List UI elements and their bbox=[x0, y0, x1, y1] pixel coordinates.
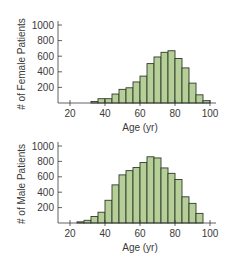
y-tick-label: 600 bbox=[37, 51, 54, 62]
histogram-bar bbox=[105, 200, 112, 223]
x-tick-label: 80 bbox=[169, 228, 181, 239]
histogram-bar bbox=[126, 171, 133, 223]
x-tick-label: 60 bbox=[134, 108, 146, 119]
histogram-bar bbox=[147, 157, 154, 223]
histogram-bar bbox=[196, 95, 203, 103]
x-tick-label: 20 bbox=[64, 228, 76, 239]
histogram-bar bbox=[168, 173, 175, 223]
female-y-axis-title: # of Female Patients bbox=[16, 18, 27, 110]
histogram-bar bbox=[196, 213, 203, 223]
male-y-axis-title: # of Male Patients bbox=[16, 144, 27, 224]
histogram-bar bbox=[98, 99, 105, 103]
male-bars bbox=[77, 157, 203, 223]
x-tick-label: 100 bbox=[202, 108, 219, 119]
female-patients-histogram: 200400600800100020406080100 # of Female … bbox=[16, 18, 219, 133]
histogram-bar bbox=[189, 203, 196, 223]
y-tick-label: 600 bbox=[37, 171, 54, 182]
histogram-bar bbox=[112, 94, 119, 103]
histogram-bar bbox=[84, 220, 91, 223]
histogram-bar bbox=[147, 64, 154, 103]
histogram-svg: 200400600800100020406080100 # of Female … bbox=[0, 0, 226, 269]
y-tick-label: 400 bbox=[37, 66, 54, 77]
x-tick-label: 20 bbox=[64, 108, 76, 119]
histogram-bar bbox=[175, 59, 182, 103]
y-tick-label: 200 bbox=[37, 202, 54, 213]
y-tick-label: 200 bbox=[37, 82, 54, 93]
y-tick-label: 800 bbox=[37, 156, 54, 167]
histogram-bar bbox=[126, 88, 133, 103]
histogram-figure: 200400600800100020406080100 # of Female … bbox=[0, 0, 226, 269]
x-tick-label: 100 bbox=[202, 228, 219, 239]
histogram-bar bbox=[133, 168, 140, 223]
histogram-bar bbox=[119, 89, 126, 103]
histogram-bar bbox=[133, 82, 140, 103]
x-tick-label: 60 bbox=[134, 228, 146, 239]
histogram-bar bbox=[91, 216, 98, 223]
histogram-bar bbox=[119, 175, 126, 223]
histogram-bar bbox=[161, 168, 168, 223]
histogram-bar bbox=[175, 180, 182, 224]
y-tick-label: 1000 bbox=[32, 20, 55, 31]
x-tick-label: 80 bbox=[169, 108, 181, 119]
x-tick-label: 40 bbox=[99, 228, 111, 239]
histogram-bar bbox=[154, 158, 161, 223]
histogram-bar bbox=[182, 68, 189, 103]
x-tick-label: 40 bbox=[99, 108, 111, 119]
histogram-bar bbox=[154, 57, 161, 103]
histogram-bar bbox=[161, 52, 168, 103]
histogram-bar bbox=[168, 51, 175, 103]
histogram-bar bbox=[98, 212, 105, 223]
histogram-bar bbox=[140, 76, 147, 103]
histogram-bar bbox=[189, 83, 196, 103]
y-tick-label: 1000 bbox=[32, 141, 55, 152]
y-tick-label: 400 bbox=[37, 187, 54, 198]
histogram-bar bbox=[105, 99, 112, 103]
female-axes: 200400600800100020406080100 bbox=[32, 20, 219, 120]
y-tick-label: 800 bbox=[37, 35, 54, 46]
female-bars bbox=[91, 51, 210, 103]
histogram-bar bbox=[182, 197, 189, 223]
histogram-bar bbox=[140, 163, 147, 223]
male-patients-histogram: 200400600800100020406080100 # of Male Pa… bbox=[16, 141, 219, 254]
female-x-axis-title: Age (yr) bbox=[122, 122, 158, 133]
male-x-axis-title: Age (yr) bbox=[122, 242, 158, 253]
histogram-bar bbox=[112, 185, 119, 223]
